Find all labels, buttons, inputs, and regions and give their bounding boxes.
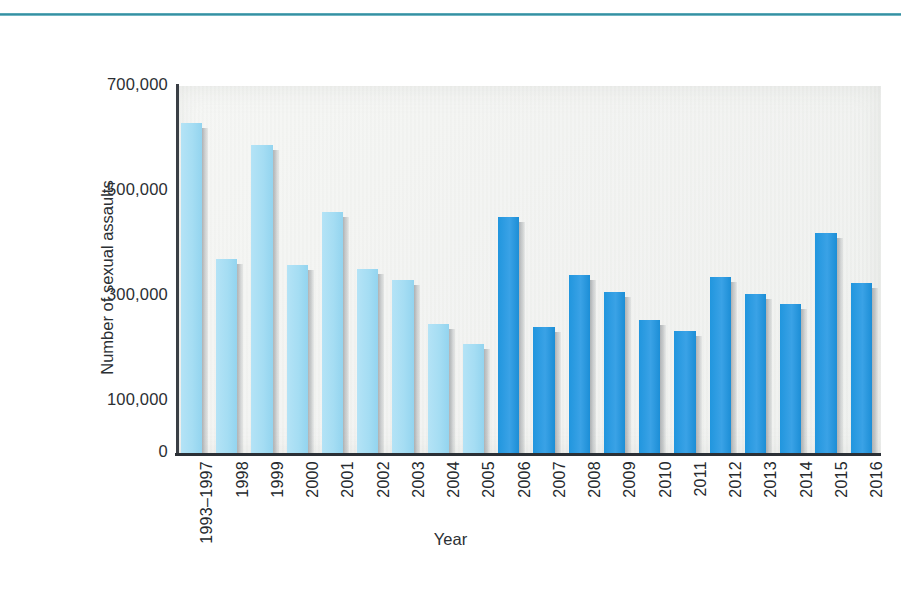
bar-slot [604,86,625,453]
bar[interactable] [251,145,272,453]
x-tick-label: 1999 [269,461,287,498]
bar-drop-shadow [378,274,384,453]
bar-fill [181,123,202,453]
bar-series [176,86,881,453]
bar-slot [780,86,801,453]
x-tick-label: 2014 [798,461,816,498]
x-tick-label: 2010 [657,461,675,498]
bar[interactable] [287,265,308,453]
bar-fill [639,320,660,453]
y-tick-label: 700,000 [107,75,168,94]
bar[interactable] [463,344,484,453]
x-tick-label: 2005 [480,461,498,498]
bar-slot [815,86,836,453]
bar[interactable] [322,212,343,453]
bar-fill [357,269,378,453]
bar-drop-shadow [696,336,702,453]
bar-drop-shadow [449,329,455,453]
bar-drop-shadow [414,285,420,453]
bar-fill [251,145,272,453]
x-tick-label: 1998 [234,461,252,498]
bar-drop-shadow [590,280,596,453]
bar-slot [710,86,731,453]
bar-slot [463,86,484,453]
bar-drop-shadow [273,150,279,453]
bar-fill [287,265,308,453]
bar-slot [851,86,872,453]
bar[interactable] [498,217,519,453]
bar-fill [569,275,590,453]
x-tick-label: 2004 [445,461,463,498]
bar[interactable] [710,277,731,453]
x-tick-label: 2003 [410,461,428,498]
bar-fill [533,327,554,453]
bar[interactable] [533,327,554,453]
x-axis-title: Year [0,530,901,549]
bar[interactable] [181,123,202,453]
bar-drop-shadow [308,270,314,453]
bar-fill [745,294,766,453]
bar[interactable] [639,320,660,453]
figure-page: 0100,000300,000500,000700,000 Number of … [0,0,901,600]
bar[interactable] [392,280,413,453]
bar[interactable] [357,269,378,453]
bar-fill [498,217,519,453]
chart-figure: 0100,000300,000500,000700,000 Number of … [0,18,901,600]
x-tick-label: 2016 [868,461,886,498]
bar[interactable] [428,324,449,453]
bar-fill [780,304,801,453]
y-axis-title-holder: Number of sexual assaults [25,118,65,418]
bar-slot [181,86,202,453]
bar-fill [710,277,731,453]
bar-drop-shadow [766,299,772,453]
bar-slot [216,86,237,453]
bar[interactable] [569,275,590,453]
x-axis-line [175,453,881,456]
bar-slot [639,86,660,453]
bar-drop-shadow [484,349,490,453]
bar-slot [569,86,590,453]
top-accent-rule [0,13,901,16]
bar-slot [251,86,272,453]
bar[interactable] [780,304,801,453]
x-axis-tick-labels: 1993–19971998199920002001200220032004200… [176,459,881,569]
bar-slot [357,86,378,453]
bar[interactable] [216,259,237,454]
bar-slot [392,86,413,453]
x-tick-label: 2013 [762,461,780,498]
bar-drop-shadow [519,222,525,453]
bar-drop-shadow [343,217,349,453]
x-tick-label: 2000 [304,461,322,498]
x-tick-label: 2009 [621,461,639,498]
x-tick-label: 2001 [339,461,357,498]
x-tick-label: 2011 [692,461,710,497]
bar-drop-shadow [872,288,878,453]
x-tick-label: 2008 [586,461,604,498]
bar-drop-shadow [625,297,631,453]
x-tick-label: 2012 [727,461,745,498]
bar-fill [815,233,836,453]
bar-slot [322,86,343,453]
bar-slot [287,86,308,453]
bar[interactable] [604,292,625,453]
bar-slot [498,86,519,453]
bar-slot [533,86,554,453]
x-tick-label: 2007 [551,461,569,498]
bar[interactable] [815,233,836,453]
bar-slot [674,86,695,453]
bar-fill [674,331,695,453]
x-tick-label: 2002 [375,461,393,498]
x-tick-label: 2015 [833,461,851,498]
bar-fill [851,283,872,453]
bar[interactable] [745,294,766,453]
bar-fill [392,280,413,453]
bar-slot [428,86,449,453]
x-tick-label: 2006 [516,461,534,498]
bar-drop-shadow [660,325,666,453]
bar-slot [745,86,766,453]
bar[interactable] [674,331,695,453]
bar[interactable] [851,283,872,453]
bar-fill [216,259,237,454]
bar-drop-shadow [237,264,243,454]
bar-fill [604,292,625,453]
